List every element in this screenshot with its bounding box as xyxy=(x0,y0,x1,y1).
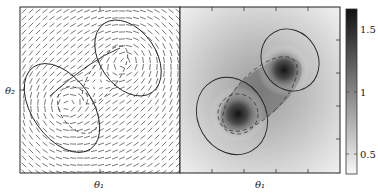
right-xlabel: θ₁ xyxy=(255,179,265,190)
left-ylabel: θ₂ xyxy=(5,85,15,96)
colorbar-tick-0-5: 0.5 xyxy=(360,149,376,160)
figure: θ₁ θ₂ θ₁ 1.5 1 0.5 xyxy=(0,0,378,195)
left-panel-quiver xyxy=(9,7,181,174)
colorbar-tick-1: 1 xyxy=(360,87,366,98)
colorbar-tick-1-5: 1.5 xyxy=(360,24,376,35)
colorbar: 1.5 1 0.5 xyxy=(346,9,376,174)
right-panel-heatmap xyxy=(180,7,340,173)
left-xlabel: θ₁ xyxy=(94,179,104,190)
